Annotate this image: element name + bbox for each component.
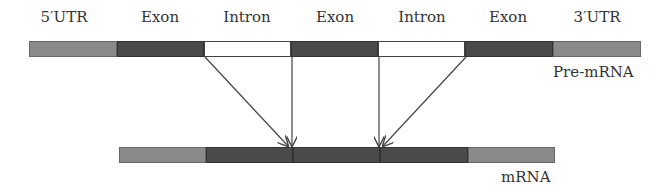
splicing-arrows [0, 0, 666, 192]
mrna-3utr [468, 147, 555, 163]
mrna-exon-2 [293, 147, 380, 163]
arrow-exon1-join [205, 57, 288, 146]
mrna-5utr [119, 147, 206, 163]
mrna-exon-3 [380, 147, 468, 163]
mrna-exon-1 [206, 147, 293, 163]
mrna-label: mRNA [501, 168, 550, 186]
arrow-exon3-join [383, 57, 466, 146]
mrna-bar [119, 147, 555, 163]
